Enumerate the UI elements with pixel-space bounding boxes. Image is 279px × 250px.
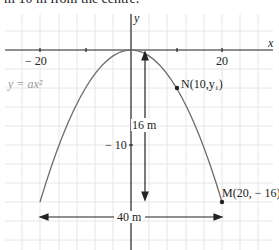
point-M	[220, 200, 224, 204]
y-tick-label-neg10: − 10	[105, 139, 127, 151]
parabola-diagram: m 10 m from the centre.	[0, 0, 279, 250]
y-axis-label: y	[134, 12, 139, 24]
width-dimension-label: 40 m	[116, 211, 142, 223]
height-dimension-label: 16 m	[131, 119, 157, 131]
x-tick-label-20: 20	[216, 55, 228, 67]
x-axis-label: x	[268, 37, 273, 49]
point-M-label: M(20, − 16)	[222, 187, 279, 199]
point-N	[175, 86, 179, 90]
x-tick-label-neg20: − 20	[25, 55, 47, 67]
equation-label: y = ax²	[8, 78, 42, 90]
point-N-label: N(10,y₁)	[181, 78, 223, 90]
